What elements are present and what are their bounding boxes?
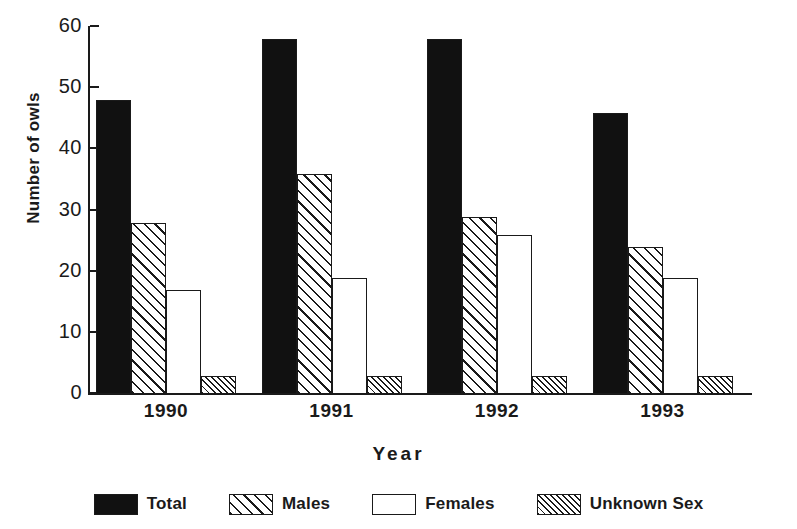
y-axis-tick-label: 20 bbox=[38, 260, 82, 280]
legend-label: Females bbox=[425, 494, 494, 514]
legend-swatch-icon bbox=[372, 494, 416, 515]
legend-item-unknown-sex: Unknown Sex bbox=[537, 494, 704, 515]
legend-item-females: Females bbox=[372, 494, 494, 515]
bar-1992-total bbox=[427, 39, 462, 394]
bar-1992-males bbox=[462, 217, 497, 394]
bar-1991-males bbox=[297, 174, 332, 394]
y-axis-tick-label: 10 bbox=[38, 321, 82, 341]
bar-chart: 0102030405060 Number of owls 19901991199… bbox=[0, 0, 797, 529]
bar-1993-unknown-sex bbox=[698, 376, 733, 394]
bar-1992-unknown-sex bbox=[532, 376, 567, 394]
bar-1993-females bbox=[663, 278, 698, 394]
bar-1990-total bbox=[96, 100, 131, 394]
bar-1990-females bbox=[166, 290, 201, 394]
bar-1992-females bbox=[497, 235, 532, 394]
x-axis-label-1992: 1992 bbox=[427, 400, 567, 422]
y-axis-tick-label: 30 bbox=[38, 199, 82, 219]
chart-legend: TotalMalesFemalesUnknown Sex bbox=[0, 487, 797, 521]
bars-layer bbox=[90, 26, 752, 394]
legend-swatch-icon bbox=[94, 494, 138, 515]
legend-item-total: Total bbox=[94, 494, 187, 515]
bar-1990-males bbox=[131, 223, 166, 394]
y-axis-tick-label: 40 bbox=[38, 137, 82, 157]
x-axis-label-1990: 1990 bbox=[96, 400, 236, 422]
x-axis-label-1993: 1993 bbox=[593, 400, 733, 422]
bar-1991-females bbox=[332, 278, 367, 394]
legend-label: Males bbox=[282, 494, 330, 514]
legend-label: Total bbox=[147, 494, 187, 514]
bar-1990-unknown-sex bbox=[201, 376, 236, 394]
y-axis-title: Number of owls bbox=[24, 48, 44, 268]
y-axis-tick-label: 50 bbox=[38, 76, 82, 96]
x-axis-title: Year bbox=[0, 443, 797, 465]
bar-1991-unknown-sex bbox=[367, 376, 402, 394]
y-axis-tick-label: 0 bbox=[38, 382, 82, 402]
legend-item-males: Males bbox=[229, 494, 330, 515]
legend-swatch-icon bbox=[537, 494, 581, 515]
legend-label: Unknown Sex bbox=[590, 494, 704, 514]
legend-swatch-icon bbox=[229, 494, 273, 515]
y-axis-tick-label: 60 bbox=[38, 15, 82, 35]
bar-1991-total bbox=[262, 39, 297, 394]
x-axis-label-1991: 1991 bbox=[262, 400, 402, 422]
bar-1993-males bbox=[628, 247, 663, 394]
bar-1993-total bbox=[593, 113, 628, 394]
